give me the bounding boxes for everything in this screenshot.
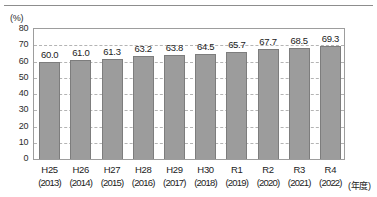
y-tick-label: 10 — [0, 138, 31, 147]
bar-R2 — [258, 49, 279, 159]
x-year-label-R1: (2019) — [220, 177, 254, 188]
value-label-R2: 67.7 — [251, 37, 285, 47]
x-year-label-H29: (2017) — [157, 177, 191, 188]
y-tick-label: 40 — [0, 89, 31, 98]
bar-R4 — [320, 46, 341, 159]
y-tick-0: 0 — [0, 154, 31, 163]
bar-H28 — [133, 56, 154, 159]
x-year-label-H28: (2016) — [126, 177, 160, 188]
y-axis: 80706050403020100 — [0, 28, 31, 160]
bar-H30 — [195, 54, 216, 159]
bar-H25 — [39, 62, 60, 160]
value-label-H25: 60.0 — [33, 50, 67, 60]
bar-R3 — [289, 48, 310, 159]
y-tick-label: 0 — [0, 154, 31, 163]
bar-R1 — [226, 52, 247, 159]
bar-H29 — [164, 55, 185, 159]
x-year-label-R4: (2022) — [313, 177, 347, 188]
y-axis-unit-label: (%) — [10, 13, 23, 23]
y-tick-50: 50 — [0, 73, 31, 82]
y-tick-70: 70 — [0, 40, 31, 49]
x-year-label-H25: (2013) — [33, 177, 67, 188]
y-tick-label: 50 — [0, 73, 31, 82]
value-label-H30: 64.5 — [189, 42, 223, 52]
x-tick-label-H30: H30 — [189, 164, 223, 175]
x-tick-label-R3: R3 — [282, 164, 316, 175]
value-label-H29: 63.8 — [157, 43, 191, 53]
bar-H27 — [102, 59, 123, 159]
x-tick-label-R4: R4 — [313, 164, 347, 175]
value-label-R4: 69.3 — [313, 34, 347, 44]
x-year-label-H26: (2014) — [64, 177, 98, 188]
value-label-R3: 68.5 — [282, 36, 316, 46]
x-tick-label-H25: H25 — [33, 164, 67, 175]
value-label-H26: 61.0 — [64, 48, 98, 58]
y-tick-60: 60 — [0, 57, 31, 66]
y-tick-10: 10 — [0, 138, 31, 147]
y-tick-label: 20 — [0, 122, 31, 131]
value-label-H28: 63.2 — [126, 44, 160, 54]
x-year-label-R2: (2020) — [251, 177, 285, 188]
x-tick-label-H29: H29 — [157, 164, 191, 175]
y-tick-20: 20 — [0, 122, 31, 131]
x-year-label-H30: (2018) — [189, 177, 223, 188]
y-tick-label: 80 — [0, 24, 31, 33]
y-tick-40: 40 — [0, 89, 31, 98]
x-tick-label-H28: H28 — [126, 164, 160, 175]
value-label-H27: 61.3 — [95, 47, 129, 57]
page-top-rule — [4, 5, 373, 6]
x-year-label-R3: (2021) — [282, 177, 316, 188]
y-tick-80: 80 — [0, 24, 31, 33]
x-year-label-H27: (2015) — [95, 177, 129, 188]
x-tick-label-H27: H27 — [95, 164, 129, 175]
value-label-R1: 65.7 — [220, 40, 254, 50]
x-tick-label-R2: R2 — [251, 164, 285, 175]
y-tick-label: 70 — [0, 40, 31, 49]
x-tick-label-R1: R1 — [220, 164, 254, 175]
y-tick-label: 60 — [0, 57, 31, 66]
y-tick-label: 30 — [0, 105, 31, 114]
y-tick-30: 30 — [0, 105, 31, 114]
bar-H26 — [70, 60, 91, 159]
x-tick-label-H26: H26 — [64, 164, 98, 175]
x-axis-title: (年度) — [348, 181, 371, 192]
